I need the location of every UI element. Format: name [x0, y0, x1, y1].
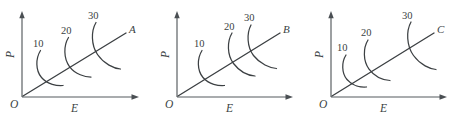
- curve-label-b-30: 30: [244, 12, 255, 23]
- figure-container: P E O A 10 20 30 P E O B: [0, 0, 459, 124]
- y-axis-c: [328, 11, 333, 97]
- y-axis-arrow-icon: [328, 11, 333, 18]
- y-axis-label-b: P: [159, 51, 171, 59]
- curve-label-b-10: 10: [194, 38, 205, 49]
- x-axis-c: [331, 94, 447, 99]
- y-axis-b: [174, 11, 179, 97]
- y-axis-arrow-icon: [174, 11, 179, 18]
- ray-label-a: A: [128, 23, 136, 35]
- iso-curve-c-30: [408, 22, 436, 70]
- x-axis-arrow-icon: [132, 94, 140, 99]
- curve-label-c-10: 10: [337, 42, 348, 53]
- x-axis-b: [177, 94, 293, 99]
- y-axis-arrow-icon: [19, 11, 24, 18]
- curve-label-c-20: 20: [361, 27, 372, 38]
- chart-panel-c: P E O C 10 20 30: [306, 0, 459, 124]
- curve-label-a-20: 20: [61, 25, 72, 36]
- ray-label-c: C: [437, 23, 445, 35]
- x-axis-arrow-icon: [286, 94, 294, 99]
- x-axis-label-a: E: [70, 102, 78, 114]
- iso-curve-b-30: [248, 25, 276, 69]
- x-axis-label-b: E: [225, 102, 233, 114]
- origin-label-b: O: [165, 98, 174, 110]
- x-axis-label-c: E: [379, 102, 387, 114]
- chart-panel-b: P E O B 10 20 30: [153, 0, 306, 124]
- x-axis-arrow-icon: [440, 94, 448, 99]
- y-axis-label-c: P: [313, 51, 325, 59]
- curve-label-a-10: 10: [33, 38, 44, 49]
- iso-curve-b-20: [228, 33, 255, 76]
- curve-label-c-30: 30: [402, 10, 413, 21]
- curve-label-a-30: 30: [88, 10, 99, 21]
- ray-label-b: B: [283, 23, 290, 35]
- x-axis-a: [22, 94, 139, 99]
- origin-label-a: O: [10, 98, 19, 110]
- origin-label-c: O: [319, 98, 328, 110]
- chart-panel-a: P E O A 10 20 30: [0, 0, 153, 124]
- y-axis-label-a: P: [4, 51, 16, 59]
- curve-label-b-20: 20: [224, 21, 235, 32]
- iso-curve-a-30: [92, 23, 120, 70]
- iso-curve-a-10: [37, 51, 63, 86]
- y-axis-a: [19, 11, 24, 97]
